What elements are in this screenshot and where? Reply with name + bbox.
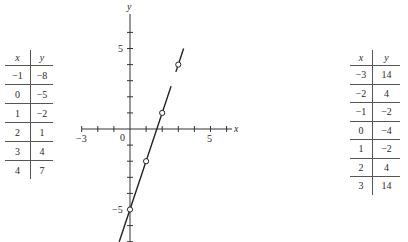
y-tick-label-neg5: −5 <box>112 204 123 215</box>
data-point <box>144 159 149 164</box>
x-axis-label: x <box>233 123 239 134</box>
x-tick-label-neg3: −3 <box>76 133 87 144</box>
graph: x y 0 −3 5 5 −5 <box>0 0 408 242</box>
origin-label: 0 <box>120 132 125 143</box>
x-tick-label-5: 5 <box>207 133 212 144</box>
y-tick-label-5: 5 <box>118 43 123 54</box>
data-point <box>127 207 132 212</box>
y-axis-label: y <box>126 1 132 12</box>
data-point <box>176 62 181 67</box>
data-point <box>160 110 165 115</box>
graph-line <box>176 49 184 72</box>
